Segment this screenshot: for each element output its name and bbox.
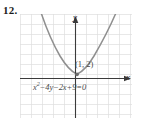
y-axis-label: y [73,14,77,22]
vertex-point [75,72,79,76]
exercise-figure: 12. [0,0,146,125]
x-axis-label: x [126,72,130,82]
vertex-point-label: (1, 2) [75,59,93,69]
equation-remainder: −4y−2x+9=0 [40,82,87,92]
equation-label: x2−4y−2x+9=0 [33,82,86,92]
problem-number: 12. [3,4,17,16]
